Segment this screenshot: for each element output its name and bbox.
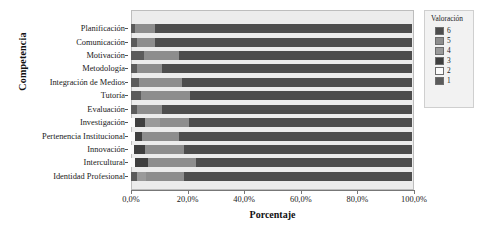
stacked-bar[interactable] — [131, 78, 412, 87]
bar-row — [131, 89, 412, 102]
bar-segment-6[interactable] — [162, 105, 412, 114]
legend-item[interactable]: 1 — [435, 76, 471, 85]
x-tick-label: 60,0% — [271, 195, 331, 204]
category-label: Comunicación — [18, 35, 128, 48]
bar-segment-4[interactable] — [145, 118, 160, 127]
category-label: Motivación — [18, 49, 128, 62]
category-tick-mark — [125, 162, 128, 163]
bar-segment-6[interactable] — [155, 24, 412, 33]
legend-item[interactable]: 2 — [435, 66, 471, 75]
bar-segment-5[interactable] — [139, 78, 181, 87]
legend-label: 2 — [447, 67, 451, 74]
stacked-bar[interactable] — [131, 145, 412, 154]
bar-segment-5[interactable] — [142, 132, 179, 141]
category-tick-mark — [125, 176, 128, 177]
stacked-bar[interactable] — [131, 132, 412, 141]
bar-segment-6[interactable] — [190, 91, 412, 100]
category-label-text: Pertenencia Institucional — [42, 132, 125, 141]
category-label: Investigación — [18, 116, 128, 129]
bar-segment-6[interactable] — [182, 78, 412, 87]
category-label-text: Tutoría — [101, 91, 125, 100]
stacked-bar[interactable] — [131, 24, 412, 33]
category-label-text: Evaluación — [87, 105, 125, 114]
stacked-bar[interactable] — [131, 38, 412, 47]
bar-segment-6[interactable] — [189, 118, 412, 127]
bar-segment-6[interactable] — [184, 172, 412, 181]
stacked-bar[interactable] — [131, 172, 412, 181]
stacked-bar[interactable] — [131, 51, 412, 60]
bar-segment-6[interactable] — [179, 132, 412, 141]
legend-item[interactable]: 4 — [435, 46, 471, 55]
x-tick-mark — [244, 190, 245, 194]
bar-segment-5[interactable] — [148, 158, 196, 167]
bar-row — [131, 62, 412, 75]
legend-label: 4 — [447, 47, 451, 54]
bar-segment-1[interactable] — [131, 91, 141, 100]
legend-swatch — [435, 27, 444, 35]
category-label-text: Intercultural — [84, 158, 125, 167]
bar-segment-5[interactable] — [141, 91, 190, 100]
category-tick-mark — [125, 122, 128, 123]
category-label-text: Integración de Medios — [50, 78, 125, 87]
legend-item[interactable]: 5 — [435, 36, 471, 45]
legend-swatch — [435, 77, 444, 85]
bar-segment-6[interactable] — [162, 64, 412, 73]
category-tick-mark — [125, 55, 128, 56]
bar-segment-5[interactable] — [160, 118, 188, 127]
legend-label: 5 — [447, 37, 451, 44]
legend: Valoración 654321 — [424, 10, 474, 108]
stacked-bar[interactable] — [131, 158, 412, 167]
x-tick-label: 40,0% — [214, 195, 274, 204]
legend-label: 1 — [447, 77, 451, 84]
category-label: Evaluación — [18, 103, 128, 116]
bar-segment-3[interactable] — [134, 145, 145, 154]
bar-row — [131, 116, 412, 129]
bar-segment-6[interactable] — [184, 145, 412, 154]
legend-swatch — [435, 57, 444, 65]
category-tick-mark — [125, 82, 128, 83]
bar-segment-1[interactable] — [131, 51, 144, 60]
bar-segment-5[interactable] — [146, 172, 184, 181]
legend-item[interactable]: 3 — [435, 56, 471, 65]
bar-segment-4[interactable] — [137, 172, 147, 181]
category-tick-mark — [125, 136, 128, 137]
chart-figure: Competencia PlanificaciónComunicaciónMot… — [0, 0, 479, 232]
legend-swatch — [435, 47, 444, 55]
bar-segment-5[interactable] — [137, 64, 162, 73]
category-tick-mark — [125, 28, 128, 29]
bar-segment-3[interactable] — [135, 132, 142, 141]
x-tick-mark — [301, 190, 302, 194]
x-tick-mark — [188, 190, 189, 194]
category-tick-mark — [125, 109, 128, 110]
x-tick-mark — [414, 190, 415, 194]
category-label-text: Motivación — [86, 51, 125, 60]
bar-segment-1[interactable] — [131, 78, 139, 87]
bar-row — [131, 156, 412, 169]
legend-item[interactable]: 6 — [435, 26, 471, 35]
bar-row — [131, 143, 412, 156]
legend-title: Valoración — [431, 14, 471, 23]
bar-segment-6[interactable] — [196, 158, 412, 167]
bar-segment-3[interactable] — [135, 158, 148, 167]
x-tick-mark — [131, 190, 132, 194]
category-label-text: Investigación — [80, 118, 125, 127]
bar-segment-5[interactable] — [145, 145, 184, 154]
category-tick-mark — [125, 149, 128, 150]
stacked-bar[interactable] — [131, 91, 412, 100]
stacked-bar[interactable] — [131, 105, 412, 114]
x-tick-label: 0,0% — [101, 195, 161, 204]
stacked-bar[interactable] — [131, 64, 412, 73]
x-axis-ticks — [131, 190, 414, 194]
stacked-bar[interactable] — [131, 118, 412, 127]
bar-segment-6[interactable] — [179, 51, 412, 60]
bar-segment-5[interactable] — [137, 105, 162, 114]
x-axis-title: Porcentaje — [131, 209, 414, 220]
bar-segment-5[interactable] — [137, 38, 155, 47]
bar-segment-3[interactable] — [135, 118, 145, 127]
legend-swatch — [435, 37, 444, 45]
bar-segment-5[interactable] — [135, 24, 155, 33]
x-tick-label: 20,0% — [158, 195, 218, 204]
bar-segment-6[interactable] — [155, 38, 412, 47]
x-tick-label: 100,0% — [384, 195, 444, 204]
bar-segment-5[interactable] — [144, 51, 179, 60]
